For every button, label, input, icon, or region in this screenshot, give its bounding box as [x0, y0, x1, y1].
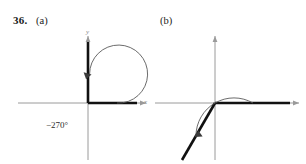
angle-arc-a	[90, 45, 148, 103]
x-axis-label-a: x	[144, 98, 147, 106]
figure-a-drawing	[0, 0, 153, 164]
figure-b-drawing	[153, 0, 306, 164]
y-axis-arrowhead-b	[213, 36, 218, 42]
y-axis-arrowhead-a	[86, 36, 91, 42]
figure-a: −270° y x	[0, 0, 153, 164]
y-axis-label-a: y	[86, 28, 89, 36]
figure-b: −120° y x x	[153, 0, 306, 164]
figure-page: 36. (a) (b) −270° y x	[0, 0, 306, 164]
angle-label-a: −270°	[46, 120, 68, 130]
x-axis-arrowhead-b	[293, 101, 299, 106]
